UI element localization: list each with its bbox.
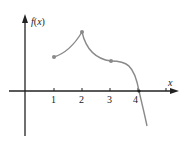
point-x2-peak	[80, 30, 84, 34]
x-axis	[9, 88, 179, 94]
x-axis-arrow-icon	[170, 88, 179, 94]
curve-f	[52, 30, 147, 126]
point-x1	[52, 55, 56, 59]
y-axis-arrow-icon	[22, 14, 28, 23]
y-axis-label-f: f(x)	[31, 16, 45, 28]
x-intercept-point	[137, 89, 140, 92]
function-graph: f(x) x 1 2 3 4	[0, 0, 183, 146]
x-tick-label-1: 1	[51, 94, 56, 105]
point-x3	[109, 59, 113, 63]
x-tick-label-4: 4	[133, 94, 138, 105]
x-tick-label-3: 3	[107, 94, 112, 105]
y-axis	[22, 14, 28, 136]
x-axis-label: x	[167, 77, 173, 88]
x-tick-label-2: 2	[79, 94, 84, 105]
